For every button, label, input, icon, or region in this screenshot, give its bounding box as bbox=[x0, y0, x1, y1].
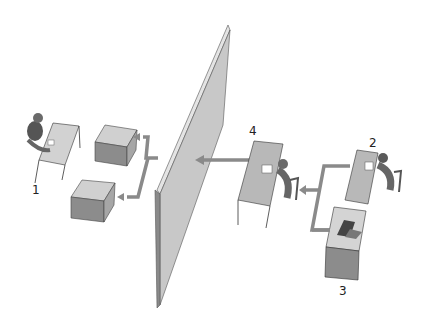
person-4-at-desk bbox=[238, 141, 298, 228]
person-1-at-desk bbox=[27, 113, 80, 183]
label-1: 1 bbox=[32, 183, 40, 197]
diagram-canvas bbox=[0, 0, 425, 328]
label-3: 3 bbox=[339, 284, 347, 298]
partition-wall bbox=[155, 25, 230, 308]
person-2-at-desk bbox=[345, 150, 401, 204]
arrow-to-wall bbox=[195, 155, 250, 165]
storage-box-bottom bbox=[71, 180, 115, 222]
label-2: 2 bbox=[369, 136, 377, 150]
storage-box-top bbox=[95, 125, 137, 166]
label-4: 4 bbox=[249, 124, 257, 138]
laptop-box bbox=[325, 207, 366, 280]
